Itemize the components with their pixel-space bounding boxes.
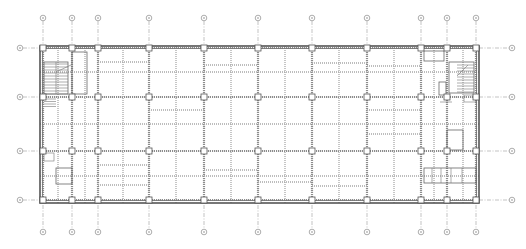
structural-column	[309, 94, 315, 100]
structural-column	[201, 45, 207, 51]
structural-column	[255, 148, 261, 154]
column-axis-bubble-top-label	[203, 17, 205, 19]
structural-column	[201, 148, 207, 154]
row-axis-bubble-right-label	[511, 96, 513, 98]
structural-column	[69, 45, 75, 51]
structural-column	[40, 45, 46, 51]
structural-column	[364, 94, 370, 100]
structural-column	[309, 197, 315, 203]
structural-column	[69, 197, 75, 203]
row-axis-bubble-right-label	[511, 199, 513, 201]
column-axis-bubble-bottom-label	[203, 231, 205, 233]
structural-column	[473, 45, 479, 51]
column-axis-bubble-bottom-label	[446, 231, 448, 233]
structural-column	[309, 148, 315, 154]
row-axis-bubble-left-label	[19, 96, 21, 98]
column-axis-bubble-top-label	[257, 17, 259, 19]
room-and-stair-details	[44, 51, 476, 184]
structural-column	[146, 197, 152, 203]
row-axis-bubble-right-label	[511, 47, 513, 49]
row-axis-bubble-right-label	[511, 150, 513, 152]
structural-column	[473, 197, 479, 203]
structural-column	[146, 45, 152, 51]
column-axis-bubble-top-label	[71, 17, 73, 19]
row-axis-bubble-left-label	[19, 150, 21, 152]
structural-column	[255, 45, 261, 51]
structural-columns	[40, 45, 479, 203]
column-axis-bubble-bottom-label	[42, 231, 44, 233]
right-room-lower	[447, 130, 463, 150]
column-axis-bubble-top-label	[366, 17, 368, 19]
structural-column	[201, 94, 207, 100]
column-axis-bubble-bottom-label	[420, 231, 422, 233]
column-axis-bubble-top-label	[420, 17, 422, 19]
structural-column	[40, 197, 46, 203]
column-axis-bubble-bottom-label	[148, 231, 150, 233]
structural-column	[40, 148, 46, 154]
column-axis-bubble-bottom-label	[475, 231, 477, 233]
structural-column	[309, 45, 315, 51]
column-axis-bubble-top-label	[148, 17, 150, 19]
floor-plan-drawing	[0, 0, 526, 249]
exterior-wall-outer	[40, 46, 479, 203]
structural-column	[255, 197, 261, 203]
row-axis-bubble-left-label	[19, 199, 21, 201]
exterior-wall-inner	[43, 49, 477, 201]
row-axis-bubble-left-label	[19, 47, 21, 49]
column-axis-bubble-top-label	[97, 17, 99, 19]
structural-column	[364, 148, 370, 154]
structural-column	[95, 94, 101, 100]
structural-column	[473, 148, 479, 154]
structural-column	[444, 148, 450, 154]
column-axis-bubble-bottom-label	[311, 231, 313, 233]
right-stair-enclosure	[449, 62, 474, 93]
column-axis-bubble-bottom-label	[366, 231, 368, 233]
structural-column	[364, 45, 370, 51]
structural-column	[146, 148, 152, 154]
column-axis-bubble-bottom-label	[71, 231, 73, 233]
exterior-walls	[40, 46, 479, 203]
structural-column	[418, 45, 424, 51]
structural-column	[69, 148, 75, 154]
beam-grid	[40, 46, 479, 203]
column-axis-bubble-top-label	[446, 17, 448, 19]
column-axis-bubble-top-label	[311, 17, 313, 19]
right-small-room	[439, 82, 446, 95]
structural-column	[473, 94, 479, 100]
column-axis-bubble-top-label	[475, 17, 477, 19]
structural-column	[418, 197, 424, 203]
structural-column	[40, 94, 46, 100]
structural-column	[418, 148, 424, 154]
column-axis-bubble-bottom-label	[257, 231, 259, 233]
structural-column	[364, 197, 370, 203]
structural-column	[444, 197, 450, 203]
structural-column	[444, 45, 450, 51]
column-axis-bubble-bottom-label	[97, 231, 99, 233]
structural-column	[95, 197, 101, 203]
structural-column	[255, 94, 261, 100]
structural-column	[418, 94, 424, 100]
structural-column	[444, 94, 450, 100]
structural-column	[69, 94, 75, 100]
structural-column	[95, 148, 101, 154]
structural-column	[146, 94, 152, 100]
structural-column	[201, 197, 207, 203]
column-axis-bubble-top-label	[42, 17, 44, 19]
structural-column	[95, 45, 101, 51]
